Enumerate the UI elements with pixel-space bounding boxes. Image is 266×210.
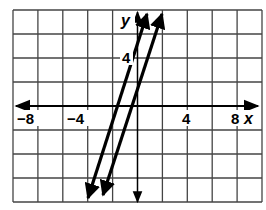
- x-tick-neg4: −4: [67, 110, 85, 127]
- graph: −8 −4 4 8 4 x y: [0, 0, 266, 210]
- x-axis-label: x: [243, 110, 254, 127]
- x-tick-neg8: −8: [17, 110, 34, 127]
- y-axis-label: y: [120, 12, 131, 29]
- y-tick-4: 4: [122, 49, 131, 66]
- x-tick-8: 8: [231, 110, 239, 127]
- line-2: [103, 14, 162, 195]
- x-tick-4: 4: [182, 110, 191, 127]
